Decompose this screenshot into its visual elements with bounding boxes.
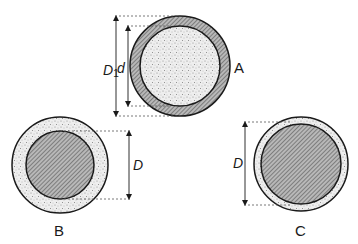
figure-c-label: C — [295, 222, 306, 239]
figure-c-core — [261, 124, 341, 204]
figure-c-d-label: D — [233, 155, 243, 171]
figure-a: D1 d A — [103, 16, 244, 116]
figure-a-core — [140, 26, 220, 106]
figure-b-core — [26, 131, 94, 199]
figure-a-label: A — [234, 59, 244, 76]
diagram-canvas: D1 d A D B D C — [0, 0, 358, 244]
figure-b-d-label: D — [133, 157, 143, 173]
figure-b-label: B — [54, 222, 64, 239]
figure-b: D B — [12, 117, 143, 239]
figure-a-d-label: d — [117, 60, 126, 76]
figure-c: D C — [233, 117, 348, 239]
